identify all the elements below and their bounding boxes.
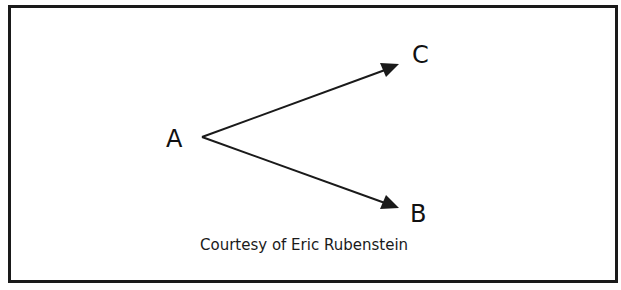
edge-a-to-b [202,137,399,209]
edge-a-to-c [202,63,399,137]
node-b-label: B [410,200,426,228]
node-a-label: A [166,125,183,153]
caption: Courtesy of Eric Rubenstein [200,236,408,254]
node-c-label: C [412,41,429,69]
diagram-canvas: A C B Courtesy of Eric Rubenstein [0,0,621,290]
